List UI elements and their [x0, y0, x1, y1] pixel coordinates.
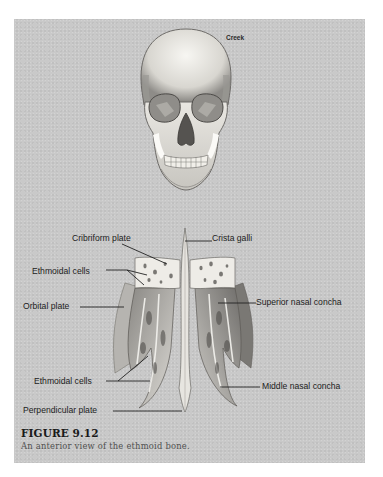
label-crista-galli: Crista galli: [212, 233, 252, 243]
label-superior-nasal-concha: Superior nasal concha: [256, 297, 342, 307]
figure-caption: An anterior view of the ethmoid bone.: [21, 441, 190, 451]
label-ethmoidal-cells-lower: Ethmoidal cells: [34, 376, 92, 386]
label-middle-nasal-concha: Middle nasal concha: [262, 381, 340, 391]
label-perpendicular-plate: Perpendicular plate: [23, 405, 97, 415]
label-ethmoidal-cells-upper: Ethmoidal cells: [32, 266, 90, 276]
label-cribriform-plate: Cribriform plate: [72, 233, 131, 243]
label-orbital-plate: Orbital plate: [23, 301, 69, 311]
figure-number: FIGURE 9.12: [21, 427, 99, 439]
